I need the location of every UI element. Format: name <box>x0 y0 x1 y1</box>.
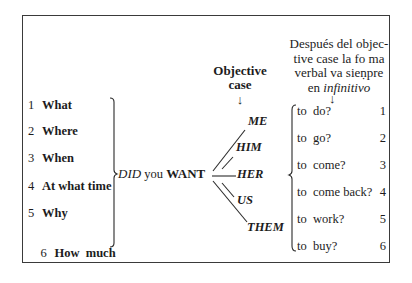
left-brace <box>110 98 117 247</box>
branch-him <box>222 157 233 169</box>
right-brace <box>289 105 296 251</box>
branch-us <box>222 183 234 197</box>
branch-them <box>213 181 247 222</box>
branch-me <box>213 130 245 171</box>
connector-lines <box>0 0 412 283</box>
